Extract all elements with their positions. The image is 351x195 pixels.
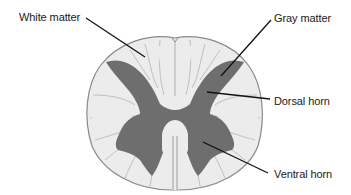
label-ventral-horn: Ventral horn xyxy=(274,168,332,180)
label-dorsal-horn: Dorsal horn xyxy=(274,95,330,107)
label-gray-matter: Gray matter xyxy=(274,12,331,24)
label-white-matter: White matter xyxy=(19,11,80,23)
spinal-cord-diagram: White matter Gray matter Dorsal horn Ven… xyxy=(0,0,351,195)
